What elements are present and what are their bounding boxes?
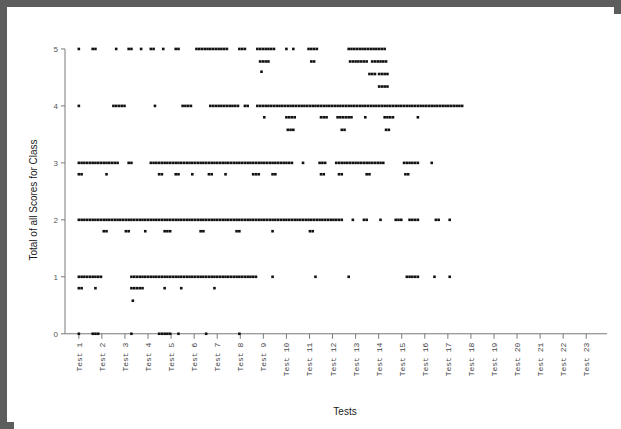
data-point — [255, 173, 258, 176]
data-point — [282, 219, 285, 222]
data-point — [356, 105, 359, 108]
data-point — [414, 105, 417, 108]
data-point — [199, 219, 202, 222]
data-point — [221, 162, 224, 165]
data-point — [118, 105, 121, 108]
data-point — [154, 105, 157, 108]
data-point — [83, 275, 86, 278]
data-point — [94, 48, 97, 51]
data-point — [325, 116, 328, 119]
data-point — [271, 173, 274, 176]
data-point — [417, 162, 420, 165]
data-point — [365, 60, 368, 63]
data-point — [227, 219, 230, 222]
data-point — [307, 219, 310, 222]
data-point — [372, 48, 375, 51]
data-point — [221, 275, 224, 278]
x-tick-label: Test 1 — [75, 343, 84, 372]
data-point — [177, 48, 180, 51]
data-point — [78, 275, 81, 278]
data-point — [237, 105, 240, 108]
data-point — [425, 105, 428, 108]
data-point — [233, 275, 236, 278]
data-point — [152, 162, 155, 165]
data-point — [144, 219, 147, 222]
data-point — [368, 173, 371, 176]
data-point — [376, 60, 379, 63]
data-point — [227, 275, 230, 278]
data-point — [383, 73, 386, 76]
data-point — [177, 219, 180, 222]
data-point — [86, 275, 89, 278]
data-point — [111, 162, 114, 165]
data-point — [257, 219, 260, 222]
data-point — [352, 60, 355, 63]
data-point — [269, 219, 272, 222]
data-point — [150, 162, 153, 165]
data-point — [292, 129, 295, 132]
data-point — [383, 48, 386, 51]
data-point — [174, 173, 177, 176]
data-point — [335, 162, 338, 165]
data-point — [158, 332, 161, 335]
data-point — [309, 105, 312, 108]
data-point — [227, 162, 230, 165]
data-point — [408, 275, 411, 278]
data-point — [383, 116, 386, 119]
data-point — [386, 73, 389, 76]
data-point — [364, 116, 367, 119]
x-tick-label: Test 12 — [329, 343, 338, 377]
data-point — [201, 48, 204, 51]
data-point — [163, 287, 166, 290]
data-point — [264, 105, 267, 108]
data-point — [439, 105, 442, 108]
data-point — [112, 105, 115, 108]
data-point — [383, 85, 386, 88]
data-point — [314, 275, 317, 278]
data-point — [411, 162, 414, 165]
x-tick-label: Test 21 — [536, 343, 545, 377]
data-point — [94, 287, 97, 290]
data-point — [358, 48, 361, 51]
data-point — [89, 162, 92, 165]
data-point — [155, 162, 158, 165]
data-point — [379, 219, 382, 222]
data-point — [115, 48, 118, 51]
data-point — [231, 105, 234, 108]
data-point — [177, 332, 180, 335]
data-point — [318, 219, 321, 222]
data-point — [123, 105, 126, 108]
data-point — [411, 219, 414, 222]
data-point — [320, 105, 323, 108]
data-point — [289, 105, 292, 108]
data-point — [347, 275, 350, 278]
data-point — [133, 275, 136, 278]
data-point — [217, 105, 220, 108]
data-point — [238, 332, 241, 335]
data-point — [260, 70, 263, 73]
data-point — [361, 105, 364, 108]
data-point — [453, 105, 456, 108]
data-point — [296, 219, 299, 222]
data-point — [172, 219, 175, 222]
data-point — [372, 105, 375, 108]
data-point — [282, 162, 285, 165]
data-point — [130, 162, 133, 165]
data-point — [208, 275, 211, 278]
data-point — [185, 162, 188, 165]
data-point — [285, 219, 288, 222]
data-point — [183, 275, 186, 278]
data-point — [105, 230, 108, 233]
data-point — [161, 173, 164, 176]
data-point — [257, 162, 260, 165]
data-point — [169, 230, 172, 233]
data-point — [202, 162, 205, 165]
data-point — [163, 230, 166, 233]
data-point — [197, 162, 200, 165]
data-point — [102, 230, 105, 233]
x-tick-label: Test 16 — [421, 343, 430, 377]
data-point — [321, 162, 324, 165]
data-point — [83, 219, 86, 222]
data-point — [161, 219, 164, 222]
data-point — [270, 105, 273, 108]
